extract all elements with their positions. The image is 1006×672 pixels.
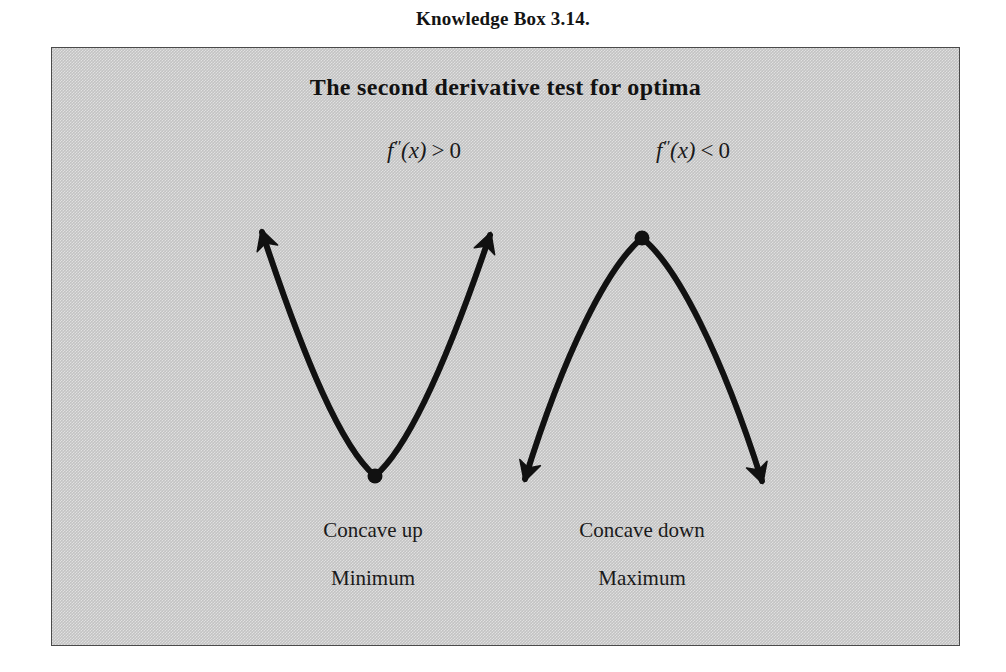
maximum-point-marker — [635, 231, 650, 246]
knowledge-box: The second derivative test for optima f″… — [51, 47, 960, 646]
curve-concave-up — [262, 232, 490, 484]
caption-left-optimum: Minimum — [331, 566, 415, 591]
box-caption: Knowledge Box 3.14. — [0, 8, 1006, 30]
page-root: Knowledge Box 3.14. The second derivativ… — [0, 0, 1006, 672]
curve-concave-down — [525, 231, 762, 482]
figure-curves — [52, 48, 960, 646]
minimum-point-marker — [368, 469, 383, 484]
caption-right-optimum: Maximum — [598, 566, 686, 591]
caption-right-concavity: Concave down — [579, 518, 704, 543]
caption-left-concavity: Concave up — [323, 518, 423, 543]
